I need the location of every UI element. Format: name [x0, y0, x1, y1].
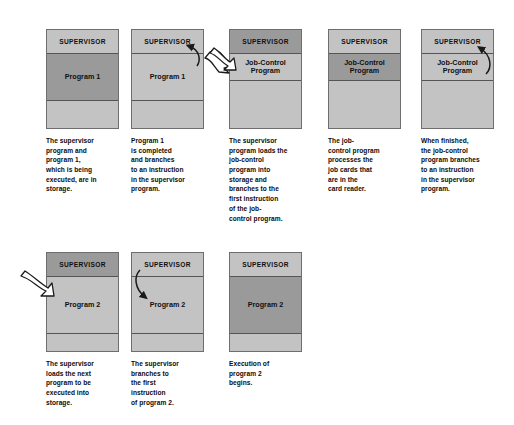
step-5: SUPERVISOR Job-Control Program When fini…: [421, 29, 494, 194]
supervisor-job-control-flow-diagram: SUPERVISOR Program 1 The supervisor prog…: [0, 0, 514, 425]
segment-program: Program 1: [47, 54, 118, 101]
segment-program: Program 2: [132, 277, 203, 334]
step-8: SUPERVISOR Program 2 Execution of progra…: [229, 252, 302, 388]
step-caption: The supervisor program loads the job-con…: [229, 136, 302, 223]
transfer-arrow-step-2-to-3: [205, 50, 230, 73]
memory-box: SUPERVISOR Program 1: [46, 29, 119, 129]
segment-program: Job-Control Program: [329, 54, 400, 81]
step-2: SUPERVISOR Program 1 Program 1 is comple…: [131, 29, 204, 194]
segment-supervisor: SUPERVISOR: [329, 30, 400, 54]
step-6: SUPERVISOR Program 2 The supervisor load…: [46, 252, 119, 407]
segment-supervisor: SUPERVISOR: [230, 30, 301, 54]
step-3: SUPERVISOR Job-Control Program The super…: [229, 29, 302, 223]
memory-box: SUPERVISOR Program 2: [229, 252, 302, 352]
step-caption: The supervisor branches to the first ins…: [131, 359, 204, 407]
step-4: SUPERVISOR Job-Control Program The job- …: [328, 29, 401, 194]
segment-supervisor: SUPERVISOR: [230, 253, 301, 277]
step-7: SUPERVISOR Program 2 The supervisor bran…: [131, 252, 204, 407]
segment-program: Program 1: [132, 54, 203, 101]
step-caption: When finished, the job-control program b…: [421, 136, 494, 194]
segment-supervisor: SUPERVISOR: [132, 30, 203, 54]
segment-supervisor: SUPERVISOR: [132, 253, 203, 277]
memory-box: SUPERVISOR Job-Control Program: [229, 29, 302, 129]
segment-supervisor: SUPERVISOR: [47, 253, 118, 277]
memory-box: SUPERVISOR Program 2: [131, 252, 204, 352]
step-caption: Program 1 is completed and branches to a…: [131, 136, 204, 194]
segment-supervisor: SUPERVISOR: [422, 30, 493, 54]
memory-box: SUPERVISOR Job-Control Program: [421, 29, 494, 129]
segment-program: Program 2: [47, 277, 118, 334]
step-caption: The supervisor program and program 1, wh…: [46, 136, 119, 194]
memory-box: SUPERVISOR Program 1: [131, 29, 204, 129]
segment-program: Job-Control Program: [230, 54, 301, 81]
memory-box: SUPERVISOR Job-Control Program: [328, 29, 401, 129]
step-caption: Execution of program 2 begins.: [229, 359, 302, 388]
memory-box: SUPERVISOR Program 2: [46, 252, 119, 352]
step-1: SUPERVISOR Program 1 The supervisor prog…: [46, 29, 119, 194]
step-caption: The supervisor loads the next program to…: [46, 359, 119, 407]
step-caption: The job- control program processes the j…: [328, 136, 401, 194]
segment-program: Job-Control Program: [422, 54, 493, 81]
segment-supervisor: SUPERVISOR: [47, 30, 118, 54]
segment-program: Program 2: [230, 277, 301, 334]
